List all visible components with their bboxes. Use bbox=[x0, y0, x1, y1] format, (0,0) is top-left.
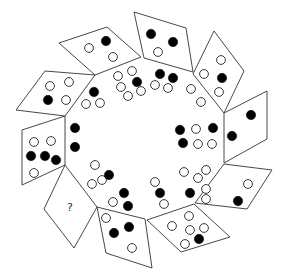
open-dot bbox=[151, 178, 160, 187]
open-dot bbox=[30, 138, 39, 147]
open-dot bbox=[47, 137, 56, 146]
open-dot bbox=[186, 226, 195, 235]
filled-dot bbox=[217, 73, 226, 82]
tile-ring: ? bbox=[16, 12, 272, 268]
open-dot bbox=[202, 195, 211, 204]
open-dot bbox=[109, 198, 118, 207]
filled-dot bbox=[185, 188, 194, 197]
open-dot bbox=[30, 169, 39, 178]
tile-shape bbox=[16, 71, 95, 116]
open-dot bbox=[128, 244, 137, 253]
open-dot bbox=[65, 78, 74, 87]
open-dot bbox=[194, 174, 203, 183]
open-dot bbox=[154, 48, 163, 57]
open-dot bbox=[215, 88, 224, 97]
open-dot bbox=[194, 140, 203, 149]
tile-upper-left bbox=[16, 71, 95, 116]
filled-dot bbox=[227, 131, 236, 140]
open-dot bbox=[185, 212, 194, 221]
open-dot bbox=[164, 84, 173, 93]
open-dot bbox=[114, 72, 123, 81]
filled-dot bbox=[155, 188, 164, 197]
tile-bottom bbox=[97, 207, 152, 268]
filled-dot bbox=[233, 196, 242, 205]
filled-dot bbox=[168, 37, 177, 46]
open-dot bbox=[109, 53, 118, 62]
open-dot bbox=[181, 240, 190, 249]
tile-shape bbox=[22, 116, 65, 185]
open-dot bbox=[102, 214, 111, 223]
open-dot bbox=[117, 83, 126, 92]
filled-dot bbox=[40, 151, 49, 160]
tile-top bbox=[134, 12, 193, 72]
filled-dot bbox=[26, 151, 35, 160]
filled-dot bbox=[132, 77, 141, 86]
open-dot bbox=[208, 140, 217, 149]
open-dot bbox=[91, 161, 100, 170]
tile-shape bbox=[224, 91, 267, 163]
open-dot bbox=[244, 180, 253, 189]
filled-dot bbox=[246, 110, 255, 119]
filled-dot bbox=[51, 155, 60, 164]
tile-right bbox=[224, 91, 267, 163]
question-mark: ? bbox=[67, 201, 73, 214]
open-dot bbox=[82, 100, 91, 109]
filled-dot bbox=[123, 201, 132, 210]
open-dot bbox=[96, 99, 105, 108]
open-dot bbox=[62, 96, 71, 105]
filled-dot bbox=[146, 29, 155, 38]
filled-dot bbox=[119, 188, 128, 197]
filled-dot bbox=[43, 95, 52, 104]
tile-question[interactable]: ? bbox=[44, 165, 97, 248]
dot-pattern-puzzle: ? bbox=[0, 0, 283, 280]
open-dot bbox=[197, 98, 206, 107]
tile-bottom-right bbox=[147, 204, 230, 252]
open-dot bbox=[88, 180, 97, 189]
open-dot bbox=[85, 44, 94, 53]
filled-dot bbox=[109, 228, 118, 237]
open-dot bbox=[168, 222, 177, 231]
open-dot bbox=[202, 185, 211, 194]
open-dot bbox=[151, 81, 160, 90]
filled-dot bbox=[104, 170, 113, 179]
tile-shape bbox=[134, 12, 193, 72]
open-dot bbox=[200, 70, 209, 79]
open-dot bbox=[46, 82, 55, 91]
filled-dot bbox=[70, 142, 79, 151]
open-dot bbox=[160, 200, 169, 209]
filled-dot bbox=[178, 138, 187, 147]
open-dot bbox=[187, 85, 196, 94]
filled-dot bbox=[175, 125, 184, 134]
filled-dot bbox=[124, 222, 133, 231]
filled-dot bbox=[70, 123, 79, 132]
open-dot bbox=[200, 224, 209, 233]
filled-dot bbox=[101, 36, 110, 45]
open-dot bbox=[202, 166, 211, 175]
open-dot bbox=[180, 168, 189, 177]
open-dot bbox=[128, 67, 137, 76]
filled-dot bbox=[168, 73, 177, 82]
inner-dot-field bbox=[70, 67, 217, 211]
filled-dot bbox=[155, 69, 164, 78]
tile-left bbox=[22, 116, 65, 185]
open-dot bbox=[217, 56, 226, 65]
filled-dot bbox=[194, 234, 203, 243]
open-dot bbox=[124, 92, 133, 101]
filled-dot bbox=[208, 123, 217, 132]
filled-dot bbox=[89, 87, 98, 96]
open-dot bbox=[192, 125, 201, 134]
open-dot bbox=[137, 87, 146, 96]
